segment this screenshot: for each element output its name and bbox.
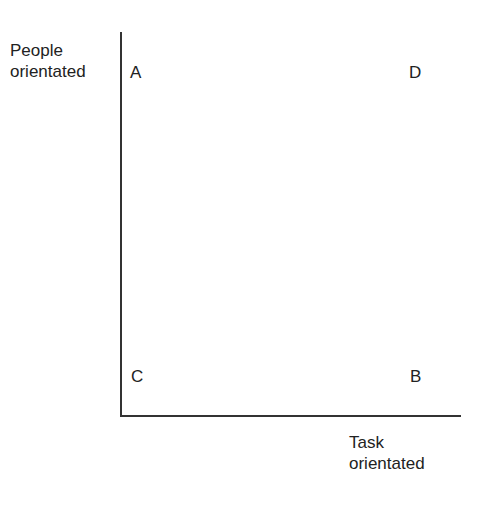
quadrant-label-c: C (131, 366, 143, 387)
y-axis-label-line-2: orientated (10, 61, 86, 82)
y-axis-label: People orientated (10, 40, 86, 82)
y-axis-line (120, 32, 122, 416)
x-axis-label-line-1: Task (349, 432, 425, 453)
quadrant-label-b: B (410, 366, 421, 387)
y-axis-label-line-1: People (10, 40, 86, 61)
x-axis-line (120, 415, 461, 417)
x-axis-label-line-2: orientated (349, 453, 425, 474)
quadrant-label-d: D (409, 62, 421, 83)
x-axis-label: Task orientated (349, 432, 425, 474)
quadrant-label-a: A (130, 62, 141, 83)
